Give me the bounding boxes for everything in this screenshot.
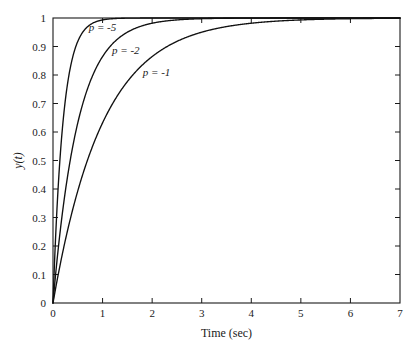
- x-tick-label: 2: [149, 307, 155, 319]
- x-tick-label: 3: [199, 307, 205, 319]
- y-tick-label: 0.2: [32, 240, 46, 252]
- y-tick-label: 0: [41, 297, 47, 309]
- curve-annotation-label: p = -1: [142, 66, 171, 78]
- y-tick-label: 0.5: [32, 155, 46, 167]
- x-tick-label: 5: [298, 307, 304, 319]
- y-tick-label: 0.3: [32, 212, 46, 224]
- step-response-chart-figure: 0123456700.10.20.30.40.50.60.70.80.91p =…: [0, 0, 419, 346]
- chart-canvas: 0123456700.10.20.30.40.50.60.70.80.91p =…: [0, 0, 419, 346]
- y-axis-title: y(t): [11, 152, 25, 170]
- y-tick-label: 0.6: [32, 126, 46, 138]
- y-tick-label: 0.9: [32, 41, 46, 53]
- x-axis-title: Time (sec): [201, 326, 252, 340]
- x-tick-label: 0: [50, 307, 56, 319]
- y-tick-label: 0.4: [32, 183, 46, 195]
- x-tick-label: 6: [348, 307, 354, 319]
- x-tick-label: 4: [249, 307, 255, 319]
- plot-area-background: [53, 18, 400, 303]
- y-tick-label: 1: [41, 12, 47, 24]
- curve-annotation-label: p = -2: [111, 44, 140, 56]
- y-tick-label: 0.1: [32, 269, 46, 281]
- curve-annotation-label: p = -5: [88, 21, 117, 33]
- y-tick-label: 0.8: [32, 69, 46, 81]
- y-tick-label: 0.7: [32, 98, 46, 110]
- x-tick-label: 7: [397, 307, 403, 319]
- x-tick-label: 1: [100, 307, 106, 319]
